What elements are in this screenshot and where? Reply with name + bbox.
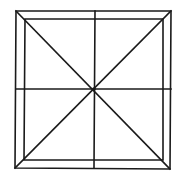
geometric-diagram	[0, 0, 176, 175]
center-point	[92, 87, 96, 91]
